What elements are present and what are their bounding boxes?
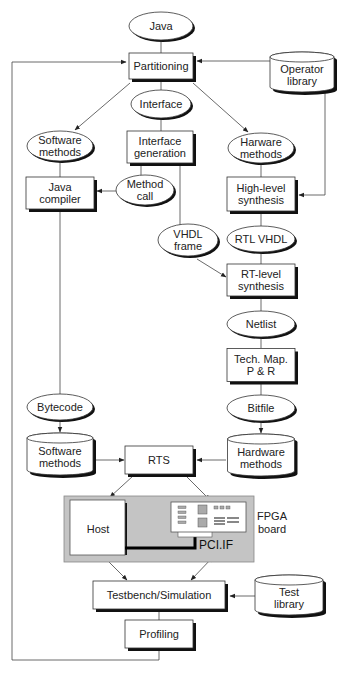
node-cylinder-top xyxy=(27,433,93,443)
node-label-line: Partitioning xyxy=(133,60,188,72)
node-label-line: Hardware xyxy=(237,446,285,458)
node-java[interactable]: Java xyxy=(129,12,195,42)
node-label-line: library xyxy=(274,598,304,610)
node-label-line: library xyxy=(287,75,317,87)
node-label-line: Bytecode xyxy=(37,401,83,413)
node-profiling[interactable]: Profiling xyxy=(125,620,196,651)
hw-sw-codesign-flow-diagram: JavaPartitioningOperatorlibraryInterface… xyxy=(0,0,348,673)
node-label-line: RT-level xyxy=(241,268,281,280)
node-cylinder-top xyxy=(255,575,323,585)
node-label-line: methods xyxy=(240,148,283,160)
node-netlist[interactable]: Netlist xyxy=(227,311,297,339)
node-label-line: synthesis xyxy=(238,280,284,292)
node-cylinder-top xyxy=(228,434,295,444)
fpga-card-icon xyxy=(171,502,246,537)
node-label-line: methods xyxy=(39,146,82,158)
edge-vhdl-frame-rt-level-synthesis xyxy=(197,259,226,277)
node-operator-library[interactable]: Operatorlibrary xyxy=(270,52,337,95)
node-high-level-synthesis[interactable]: High-levelsynthesis xyxy=(227,177,298,214)
node-label-line: Testbench/Simulation xyxy=(107,589,212,601)
fpga-board-label-line2: board xyxy=(258,523,286,535)
node-label-line: call xyxy=(137,190,154,202)
node-label-line: compiler xyxy=(39,193,81,205)
node-label-line: Method xyxy=(127,178,164,190)
node-interface-generation[interactable]: Interfacegeneration xyxy=(127,131,196,166)
node-interface[interactable]: Interface xyxy=(131,90,193,120)
node-label-line: Profiling xyxy=(139,628,179,640)
node-label-line: High-level xyxy=(237,182,286,194)
node-java-compiler[interactable]: Javacompiler xyxy=(26,177,97,212)
pci-if-label: PCI.IF xyxy=(199,538,233,552)
edge-partitioning-harware-methods xyxy=(193,83,248,132)
node-label-line: frame xyxy=(174,240,202,252)
edge-operator-library-high-level-synthesis xyxy=(299,90,325,195)
node-label-line: Software xyxy=(38,445,81,457)
node-label-line: Java xyxy=(149,20,173,32)
fpga-board-label-line1: FPGA xyxy=(257,510,288,522)
node-label-line: Interface xyxy=(139,135,182,147)
node-harware-methods[interactable]: Harwaremethods xyxy=(228,133,296,165)
node-cylinder-top xyxy=(270,52,334,62)
node-label-line: generation xyxy=(134,147,186,159)
node-label-line: methods xyxy=(240,458,283,470)
node-label-line: Tech. Map. xyxy=(234,353,288,365)
node-partitioning[interactable]: Partitioning xyxy=(129,53,196,82)
node-label-line: Interface xyxy=(140,98,183,110)
node-label-line: Software xyxy=(38,134,81,146)
node-label-line: synthesis xyxy=(238,194,284,206)
node-software-methods-data[interactable]: Softwaremethods xyxy=(27,131,95,163)
edge-rts-host xyxy=(110,476,133,497)
node-bitfile[interactable]: Bitfile xyxy=(227,395,297,423)
edge-partitioning-software-methods xyxy=(75,83,130,130)
node-label-line: VHDL xyxy=(173,228,202,240)
node-method-call[interactable]: Methodcall xyxy=(116,175,176,207)
node-label-line: Java xyxy=(48,181,72,193)
node-label-line: Test xyxy=(279,586,299,598)
node-tech-map[interactable]: Tech. Map.P & R xyxy=(227,349,298,385)
node-rt-level-synthesis[interactable]: RT-levelsynthesis xyxy=(227,264,298,299)
node-software-methods-store[interactable]: Softwaremethods xyxy=(27,433,96,478)
node-vhdl-frame[interactable]: VHDLframe xyxy=(158,224,220,258)
node-label-line: Harware xyxy=(240,136,282,148)
node-label-line: Bitfile xyxy=(248,402,275,414)
fpga-board-group: Host PCI.IF FPGA board xyxy=(64,496,288,562)
node-test-library[interactable]: Testlibrary xyxy=(255,575,326,618)
node-label-line: Netlist xyxy=(246,318,277,330)
node-testbench[interactable]: Testbench/Simulation xyxy=(93,581,228,612)
node-label-line: methods xyxy=(39,457,82,469)
node-label-line: Operator xyxy=(280,63,324,75)
node-label-line: P & R xyxy=(247,365,276,377)
node-rtl-vhdl[interactable]: RTL VHDL xyxy=(227,226,297,254)
node-label-line: RTL VHDL xyxy=(235,233,288,245)
node-rts[interactable]: RTS xyxy=(125,446,196,477)
host-label: Host xyxy=(87,523,110,535)
node-label-line: RTS xyxy=(148,454,170,466)
node-bytecode[interactable]: Bytecode xyxy=(27,394,95,422)
node-hardware-methods-store[interactable]: Hardwaremethods xyxy=(228,434,298,479)
